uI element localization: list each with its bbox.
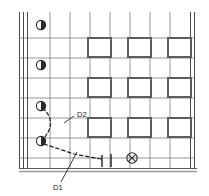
- d2-label: D2: [77, 110, 87, 119]
- ground-line-group: [19, 169, 197, 172]
- technical-figure: D2 D1: [0, 0, 209, 196]
- d1-dashed-path: [44, 144, 101, 159]
- d2-dashed-arc: [43, 108, 51, 139]
- half-filled-circle-icon: [36, 20, 45, 29]
- window-opening: [168, 78, 191, 97]
- window-opening: [88, 118, 111, 137]
- d1-label: D1: [53, 183, 63, 192]
- half-filled-circle-icon: [36, 60, 45, 69]
- window-opening: [88, 38, 111, 57]
- window-opening: [128, 118, 151, 137]
- d1-leader-line: [61, 152, 77, 182]
- window-opening: [128, 78, 151, 97]
- window-opening: [168, 118, 191, 137]
- window-opening: [168, 38, 191, 57]
- half-circle-marker-group: [36, 20, 45, 145]
- figure-canvas: D2 D1: [0, 0, 209, 196]
- window-opening-grid: [88, 38, 191, 137]
- left-frame-rails: [20, 12, 28, 168]
- window-opening: [128, 38, 151, 57]
- d2-leader-line: [64, 116, 74, 123]
- window-opening: [88, 78, 111, 97]
